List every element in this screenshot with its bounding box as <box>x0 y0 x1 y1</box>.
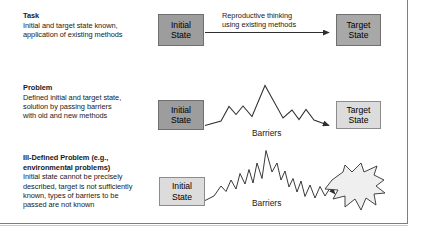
row-problem-barrier-path <box>205 86 329 126</box>
connector-layer <box>0 0 421 242</box>
row-illdefined-barrier-path <box>205 151 335 201</box>
row-illdefined-target-state-starburst <box>325 163 385 210</box>
problem-types-diagram: Task Initial and target state known, app… <box>0 0 421 242</box>
